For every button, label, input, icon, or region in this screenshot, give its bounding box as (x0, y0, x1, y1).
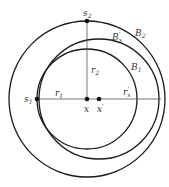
label-b1: B1 (130, 62, 141, 73)
point-x-prime (97, 97, 102, 102)
label-r2: r2 (91, 65, 99, 76)
label-x-prime: x' (97, 102, 104, 114)
point-s1 (35, 97, 40, 102)
circles-diagram: s2 s1 x x' r1 r2 rx' B1 B2 Bx' (0, 0, 169, 187)
label-rx-prime: rx' (123, 85, 131, 98)
label-s2: s2 (83, 8, 92, 19)
label-bx-prime: Bx' (111, 30, 123, 43)
point-s2 (85, 19, 90, 24)
point-x (85, 97, 90, 102)
label-r1: r1 (55, 88, 63, 99)
diagram: s2 s1 x x' r1 r2 rx' B1 B2 Bx' (0, 0, 169, 187)
label-x: x (84, 104, 89, 114)
label-s1: s1 (24, 94, 32, 105)
label-b2: B2 (134, 28, 146, 39)
